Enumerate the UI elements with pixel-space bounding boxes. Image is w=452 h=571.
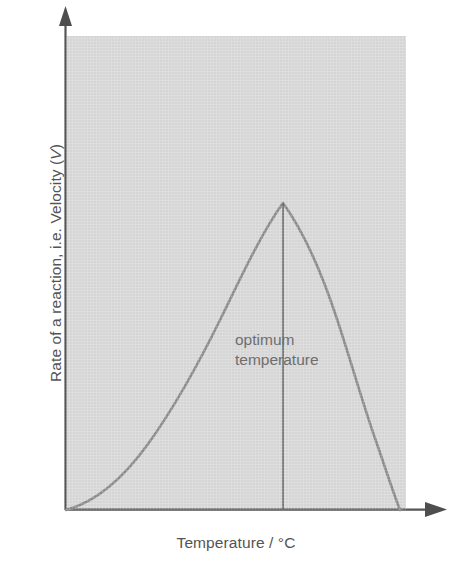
- optimum-temperature-annotation: optimum temperature: [235, 330, 319, 370]
- annotation-line-1: optimum: [235, 330, 319, 350]
- y-axis-label: Rate of a reaction, i.e. Velocity (V): [44, 26, 68, 500]
- y-axis-arrow-icon: [59, 6, 72, 26]
- y-axis-label-suffix: ): [47, 144, 65, 149]
- y-axis-label-symbol: V: [47, 149, 65, 159]
- x-axis-label: Temperature / °C: [66, 534, 406, 552]
- y-axis-label-prefix: Rate of a reaction, i.e. Velocity (: [47, 160, 65, 382]
- plot-area-background: [66, 36, 406, 510]
- annotation-line-2: temperature: [235, 350, 319, 370]
- chart-figure: Rate of a reaction, i.e. Velocity (V) Te…: [0, 0, 452, 571]
- x-axis-arrow-icon: [425, 502, 447, 517]
